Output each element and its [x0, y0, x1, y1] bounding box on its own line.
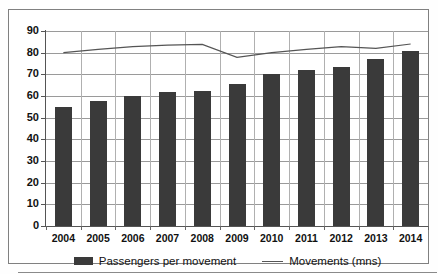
y-axis-tick-mark-60	[41, 96, 46, 97]
x-axis-tick-label-2009: 2009	[220, 232, 255, 244]
y-axis-tick-mark-10	[41, 204, 46, 205]
x-axis-tick-mark-7	[289, 226, 290, 230]
chart-legend: Passengers per movement Movements (mns)	[17, 250, 438, 272]
legend-item-passengers-per-movement[interactable]: Passengers per movement	[74, 255, 236, 267]
x-axis-tick-label-2004: 2004	[46, 232, 81, 244]
x-axis-line	[45, 226, 429, 227]
y-axis-tick-label-0: 0	[13, 220, 39, 231]
x-axis-tick-mark-3	[150, 226, 151, 230]
x-axis-tick-mark-8	[324, 226, 325, 230]
y-axis-tick-mark-40	[41, 139, 46, 140]
legend-label-passengers-per-movement: Passengers per movement	[99, 255, 236, 267]
y-axis-tick-mark-20	[41, 183, 46, 184]
x-axis-tick-mark-1	[81, 226, 82, 230]
y-axis-tick-mark-80	[41, 53, 46, 54]
x-axis-tick-label-2012: 2012	[324, 232, 359, 244]
x-axis-tick-label-2005: 2005	[81, 232, 116, 244]
y-axis-tick-label-10: 10	[13, 198, 39, 209]
legend-divider	[18, 272, 437, 273]
x-axis-tick-label-2014: 2014	[393, 232, 428, 244]
x-axis-tick-mark-5	[220, 226, 221, 230]
y-axis-tick-label-70: 70	[13, 68, 39, 79]
legend-item-movements[interactable]: Movements (mns)	[262, 255, 381, 267]
line-series-movements	[46, 31, 428, 226]
x-axis-tick-label-2011: 2011	[289, 232, 324, 244]
x-axis-tick-label-2006: 2006	[115, 232, 150, 244]
x-axis-tick-mark-9	[359, 226, 360, 230]
y-axis-tick-mark-30	[41, 161, 46, 162]
y-axis-tick-label-90: 90	[13, 25, 39, 36]
x-axis-tick-label-2008: 2008	[185, 232, 220, 244]
x-axis-tick-mark-4	[185, 226, 186, 230]
chart-figure: Passengers per movement Movements (mns) …	[0, 0, 438, 274]
x-axis-tick-label-2007: 2007	[150, 232, 185, 244]
bar-swatch-icon	[74, 257, 93, 265]
x-axis-tick-mark-10	[393, 226, 394, 230]
line-swatch-icon	[262, 261, 283, 262]
y-axis-tick-mark-50	[41, 118, 46, 119]
y-axis-tick-mark-90	[41, 31, 46, 32]
x-axis-tick-mark-2	[115, 226, 116, 230]
y-axis-tick-label-30: 30	[13, 155, 39, 166]
y-axis-tick-mark-70	[41, 74, 46, 75]
chart-outer-frame: Passengers per movement Movements (mns) …	[8, 9, 429, 264]
y-axis-tick-label-20: 20	[13, 177, 39, 188]
y-axis-tick-label-80: 80	[13, 47, 39, 58]
x-axis-tick-mark-6	[254, 226, 255, 230]
legend-label-movements: Movements (mns)	[289, 255, 381, 267]
y-axis-tick-label-40: 40	[13, 133, 39, 144]
y-axis-tick-label-60: 60	[13, 90, 39, 101]
x-axis-tick-mark-11	[428, 226, 429, 230]
y-axis-tick-label-50: 50	[13, 112, 39, 123]
line-path-movements	[63, 44, 410, 57]
x-axis-tick-mark-0	[46, 226, 47, 230]
x-axis-tick-label-2010: 2010	[254, 232, 289, 244]
x-axis-tick-label-2013: 2013	[359, 232, 394, 244]
